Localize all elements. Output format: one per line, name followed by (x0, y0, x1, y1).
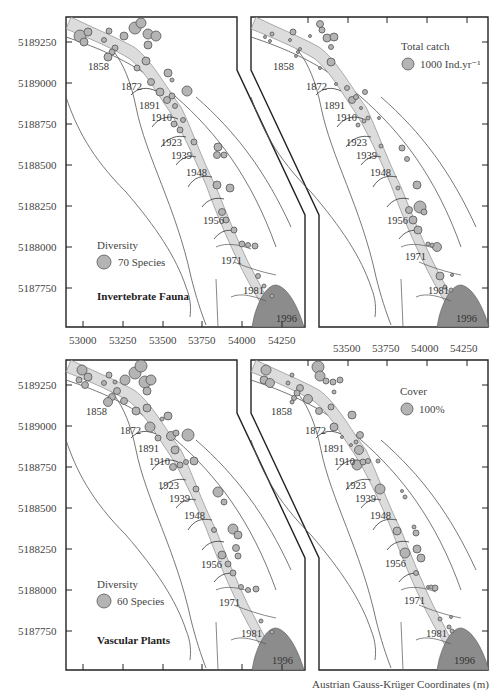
legend-marker-icon (402, 58, 414, 70)
svg-text:60 Species: 60 Species (117, 595, 164, 607)
svg-text:53500: 53500 (333, 342, 361, 354)
panel-vascular-plants: 5189250 5189000 5188750 5188500 5188250 … (18, 360, 305, 670)
svg-text:1971: 1971 (404, 595, 425, 606)
panel-cover: 1858 1872 1891 1910 1923 1939 1948 1956 … (251, 360, 489, 670)
svg-text:1923: 1923 (158, 480, 179, 491)
svg-text:1858: 1858 (273, 61, 294, 72)
svg-text:53250: 53250 (109, 334, 137, 346)
svg-text:1956: 1956 (387, 215, 408, 226)
y-axis-bottom-right (308, 360, 488, 631)
svg-text:5188750: 5188750 (18, 118, 57, 130)
y-axis-top-left: 5189250 5189000 5188750 5188500 5188250 … (18, 36, 72, 294)
svg-text:1981: 1981 (243, 285, 264, 296)
svg-text:1939: 1939 (355, 493, 376, 504)
svg-text:1891: 1891 (324, 100, 345, 111)
svg-text:1872: 1872 (121, 81, 142, 92)
svg-text:1948: 1948 (370, 167, 391, 178)
svg-text:Diversity: Diversity (97, 578, 138, 590)
svg-text:1971: 1971 (405, 251, 426, 262)
svg-text:70 Species: 70 Species (118, 256, 165, 268)
svg-text:53750: 53750 (372, 342, 400, 354)
svg-text:1971: 1971 (219, 597, 240, 608)
svg-text:5188500: 5188500 (18, 159, 57, 171)
svg-text:1910: 1910 (149, 456, 170, 467)
svg-text:5188500: 5188500 (18, 502, 57, 514)
legend-diversity-60: Diversity 60 Species Vascular Plants (97, 578, 171, 646)
svg-text:1948: 1948 (184, 510, 205, 521)
svg-text:1996: 1996 (454, 655, 475, 666)
svg-text:100%: 100% (419, 403, 445, 415)
svg-text:54250: 54250 (450, 342, 478, 354)
panel-title: Vascular Plants (97, 634, 171, 646)
figure-canvas: 5189250 5189000 5188750 5188500 5188250 … (0, 0, 503, 700)
x-axis-top-right: 53500 53750 54000 54250 (333, 342, 478, 354)
legend-marker-icon (97, 255, 111, 269)
svg-text:Cover: Cover (400, 385, 427, 397)
svg-text:Diversity: Diversity (97, 239, 138, 251)
svg-text:1910: 1910 (151, 112, 172, 123)
svg-text:1923: 1923 (346, 137, 367, 148)
x-axis-title: Austrian Gauss-Krüger Coordinates (m) (312, 678, 489, 691)
svg-text:1948: 1948 (186, 167, 207, 178)
svg-text:1000 Ind.yr⁻¹: 1000 Ind.yr⁻¹ (420, 58, 480, 70)
svg-text:1891: 1891 (323, 443, 344, 454)
svg-text:1981: 1981 (241, 628, 262, 639)
svg-text:5188250: 5188250 (18, 543, 57, 555)
svg-text:5189250: 5189250 (18, 379, 57, 391)
svg-text:5187750: 5187750 (18, 625, 57, 637)
svg-text:1858: 1858 (271, 406, 292, 417)
svg-text:53750: 53750 (188, 334, 216, 346)
legend-total-catch: Total catch 1000 Ind.yr⁻¹ (401, 40, 480, 70)
y-axis-bottom-left: 5189250 5189000 5188750 5188500 5188250 … (18, 379, 72, 637)
svg-text:5189250: 5189250 (18, 36, 57, 48)
svg-text:1939: 1939 (356, 150, 377, 161)
svg-text:1858: 1858 (86, 406, 107, 417)
svg-text:5189000: 5189000 (18, 420, 57, 432)
svg-text:1872: 1872 (306, 81, 327, 92)
svg-text:1981: 1981 (426, 628, 447, 639)
svg-text:Total catch: Total catch (401, 40, 450, 52)
svg-text:54250: 54250 (268, 334, 296, 346)
svg-text:54000: 54000 (411, 342, 439, 354)
svg-text:1996: 1996 (456, 313, 477, 324)
svg-text:1872: 1872 (120, 425, 141, 436)
svg-text:5188000: 5188000 (18, 584, 57, 596)
year-labels-top-right: 1858 1872 1891 1910 1923 1939 1948 1956 … (273, 61, 477, 324)
svg-text:1891: 1891 (139, 100, 160, 111)
svg-text:1956: 1956 (385, 558, 406, 569)
svg-text:1891: 1891 (138, 443, 159, 454)
svg-text:1956: 1956 (201, 559, 222, 570)
svg-text:1910: 1910 (334, 456, 355, 467)
panel-title: Invertebrate Fauna (97, 290, 189, 302)
svg-text:53000: 53000 (69, 334, 97, 346)
svg-text:1948: 1948 (370, 510, 391, 521)
svg-text:53500: 53500 (149, 334, 177, 346)
svg-text:1996: 1996 (276, 313, 297, 324)
svg-text:1939: 1939 (169, 493, 190, 504)
svg-text:1910: 1910 (336, 112, 357, 123)
svg-text:1923: 1923 (161, 137, 182, 148)
svg-text:1971: 1971 (221, 255, 242, 266)
svg-text:54000: 54000 (228, 334, 256, 346)
svg-text:1872: 1872 (305, 425, 326, 436)
panel-invertebrate-fauna: 5189250 5189000 5188750 5188500 5188250 … (18, 17, 305, 346)
svg-text:5189000: 5189000 (18, 77, 57, 89)
svg-text:5187750: 5187750 (18, 282, 57, 294)
svg-text:5188000: 5188000 (18, 241, 57, 253)
year-labels-bottom-left: 1858 1872 1891 1910 1923 1939 1948 1956 … (86, 406, 293, 666)
legend-cover: Cover 100% (400, 385, 445, 415)
svg-text:1858: 1858 (88, 61, 109, 72)
svg-text:1939: 1939 (171, 150, 192, 161)
svg-text:1956: 1956 (203, 215, 224, 226)
svg-text:5188250: 5188250 (18, 200, 57, 212)
legend-diversity-70: Diversity 70 Species Invertebrate Fauna (97, 239, 189, 302)
legend-marker-icon (401, 403, 413, 415)
legend-marker-icon (97, 594, 111, 608)
svg-text:5188750: 5188750 (18, 461, 57, 473)
svg-text:1996: 1996 (272, 655, 293, 666)
svg-text:1981: 1981 (428, 285, 449, 296)
svg-text:1923: 1923 (345, 480, 366, 491)
